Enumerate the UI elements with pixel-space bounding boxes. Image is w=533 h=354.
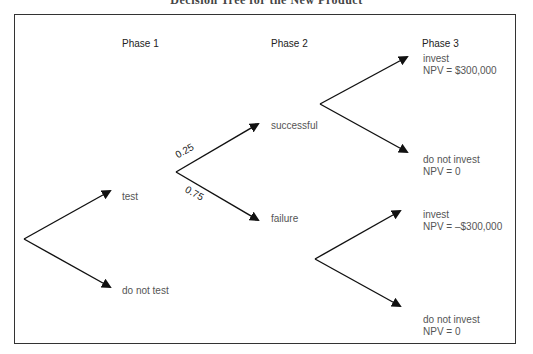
outcome-npv: NPV = 0 xyxy=(423,166,480,178)
outcome-success-do-not-invest: do not invest NPV = 0 xyxy=(423,154,480,178)
branch-failure-invest xyxy=(315,211,400,259)
outcome-label: invest xyxy=(423,53,497,65)
outcome-label: do not invest xyxy=(423,314,480,326)
outcome-failure-do-not-invest: do not invest NPV = 0 xyxy=(423,314,480,338)
phase-3-header: Phase 3 xyxy=(422,38,459,49)
phase-1-header: Phase 1 xyxy=(122,38,159,49)
label-failure: failure xyxy=(271,213,298,225)
branch-success-do-not-invest xyxy=(320,104,407,152)
outcome-npv: NPV = –$300,000 xyxy=(423,221,502,233)
branch-do-not-test xyxy=(24,239,110,287)
outcome-success-invest: invest NPV = $300,000 xyxy=(423,53,497,77)
branch-failure-do-not-invest xyxy=(315,259,400,306)
outcome-label: invest xyxy=(423,209,502,221)
branch-test xyxy=(24,191,110,239)
label-do-not-test: do not test xyxy=(122,285,169,297)
label-successful: successful xyxy=(271,120,318,132)
branch-success-invest xyxy=(320,57,407,104)
outcome-failure-invest: invest NPV = –$300,000 xyxy=(423,209,502,233)
outcome-npv: NPV = 0 xyxy=(423,326,480,338)
outcome-npv: NPV = $300,000 xyxy=(423,65,497,77)
phase-2-header: Phase 2 xyxy=(271,38,308,49)
outcome-label: do not invest xyxy=(423,154,480,166)
label-test: test xyxy=(122,191,138,203)
